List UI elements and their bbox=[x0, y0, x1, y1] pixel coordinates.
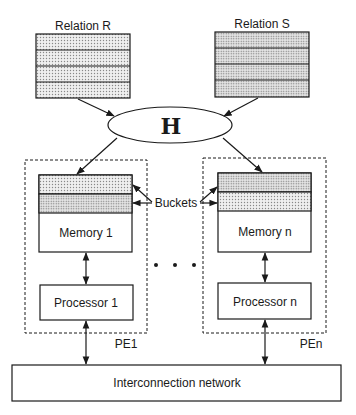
processor-1-label: Processor 1 bbox=[54, 296, 118, 310]
processor-n-label: Processor n bbox=[233, 295, 297, 309]
ellipsis-dots bbox=[154, 263, 196, 267]
memory-1-box bbox=[39, 175, 132, 252]
arrow-h-to-memory-n bbox=[223, 138, 262, 172]
pe1-label: PE1 bbox=[115, 337, 138, 351]
pen-label: PEn bbox=[300, 337, 323, 351]
hash-function-label: H bbox=[161, 113, 182, 139]
memory-n-label: Memory n bbox=[238, 225, 291, 239]
relation-s-table bbox=[215, 32, 309, 97]
relation-r-table bbox=[36, 34, 130, 98]
interconnection-network-label: Interconnection network bbox=[113, 376, 240, 390]
relation-s-label: Relation S bbox=[234, 17, 289, 31]
relation-r-label: Relation R bbox=[55, 19, 111, 33]
buckets-label: Buckets bbox=[155, 196, 198, 210]
arrow-s-to-h bbox=[224, 98, 258, 116]
arrow-r-to-h bbox=[78, 99, 114, 116]
memory-1-label: Memory 1 bbox=[59, 226, 112, 240]
arrow-h-to-memory-1 bbox=[77, 138, 117, 174]
memory-n-box bbox=[218, 173, 311, 252]
